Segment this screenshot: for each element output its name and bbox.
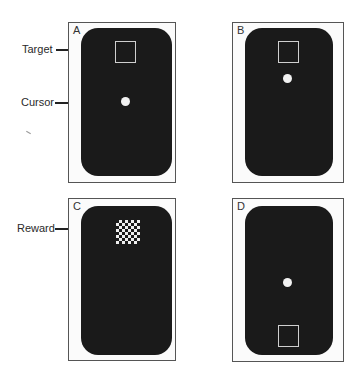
screen-a [81, 28, 172, 176]
reward-callout-label: Reward [17, 222, 55, 234]
scan-artifact [26, 131, 31, 134]
panel-b: B [232, 22, 344, 183]
screen-b [245, 28, 333, 176]
cursor-dot-a [121, 97, 130, 106]
cursor-callout-label: Cursor [21, 96, 54, 108]
panel-d: D [232, 198, 344, 362]
screen-d [245, 206, 333, 355]
target-square-d [278, 325, 299, 347]
panel-letter-d: D [237, 200, 245, 212]
target-square-a [115, 41, 136, 63]
panel-letter-a: A [73, 24, 80, 36]
target-square-b [278, 41, 299, 63]
panel-a: A [68, 22, 176, 183]
panel-c: C [68, 198, 176, 361]
target-callout-label: Target [22, 43, 53, 55]
reward-checkerboard-c [116, 220, 140, 244]
cursor-dot-b [283, 74, 292, 83]
screen-c [81, 206, 172, 355]
panel-letter-c: C [73, 200, 81, 212]
panel-letter-b: B [237, 24, 244, 36]
cursor-dot-d [283, 278, 292, 287]
